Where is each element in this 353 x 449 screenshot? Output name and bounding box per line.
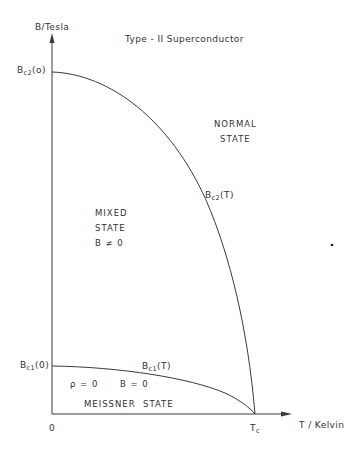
tc-label-sub: c [256, 427, 260, 435]
mixed-state-line2: STATE [95, 221, 128, 236]
bc2-curve-suffix: (T) [220, 190, 234, 200]
bc1-zero-main: B [20, 360, 27, 370]
normal-state-line1: NORMAL [214, 117, 257, 132]
bc1-curve-sub: c1 [149, 365, 158, 373]
x-axis-label: T / Kelvin [299, 421, 344, 430]
bc1-zero-suffix: (0) [35, 360, 49, 370]
x-axis-arrow-icon [281, 412, 292, 417]
bc2-zero-label: Bc2(o) [17, 66, 46, 77]
bc1-curve-suffix: (T) [157, 361, 171, 371]
meissner-rho-label: ρ = 0 [70, 377, 98, 392]
normal-state-line2: STATE [214, 132, 257, 147]
normal-state-region: NORMAL STATE [214, 117, 257, 147]
phase-diagram-plot [0, 0, 353, 449]
bc1-curve-label: Bc1(T) [142, 362, 171, 373]
meissner-b-label: B = 0 [120, 377, 149, 392]
tc-label: Tc [250, 424, 260, 435]
bc1-zero-sub: c1 [27, 364, 36, 372]
meissner-state-label: MEISSNER STATE [84, 397, 174, 412]
bc2-curve-label: Bc2(T) [205, 191, 234, 202]
bc2-curve-main: B [205, 190, 212, 200]
y-axis-arrow-icon [50, 33, 55, 43]
bc1-zero-label: Bc1(0) [20, 361, 49, 372]
bc2-zero-sub: c2 [24, 69, 33, 77]
stray-dot [331, 244, 334, 247]
bc2-zero-main: B [17, 65, 24, 75]
bc2-zero-suffix: (o) [32, 65, 46, 75]
diagram-title: Type - II Superconductor [125, 35, 244, 44]
mixed-state-region: MIXED STATE B ≠ 0 [95, 206, 128, 251]
bc2-curve-sub: c2 [212, 194, 221, 202]
bc1-curve-main: B [142, 361, 149, 371]
mixed-state-line3: B ≠ 0 [95, 236, 128, 251]
y-axis-label: B/Tesla [35, 23, 69, 32]
origin-label: 0 [49, 424, 55, 433]
mixed-state-line1: MIXED [95, 206, 128, 221]
